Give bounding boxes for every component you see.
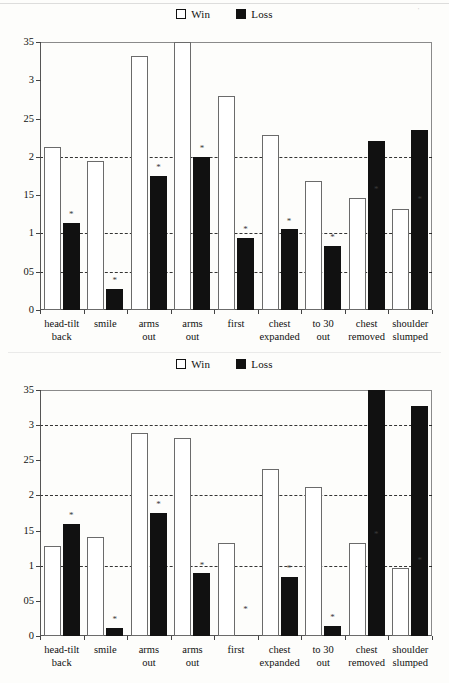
bar-win — [87, 161, 104, 310]
significance-marker: * — [147, 163, 170, 172]
bar-loss — [368, 141, 385, 310]
y-axis-tick-label: 0 — [4, 305, 34, 315]
significance-marker: * — [321, 233, 344, 242]
bar-loss — [63, 223, 80, 310]
white-square-icon — [176, 359, 186, 369]
significance-marker: * — [190, 144, 213, 153]
x-axis-tick-mark — [432, 310, 433, 314]
bar-loss — [281, 577, 298, 636]
x-axis-tick-mark — [127, 310, 128, 314]
significance-marker: * — [234, 605, 257, 614]
significance-marker: * — [60, 210, 83, 219]
x-axis-tick-mark — [84, 636, 85, 640]
x-axis-label-line2: slumped — [380, 657, 440, 670]
bar-loss — [63, 524, 80, 636]
bar-win — [305, 487, 322, 636]
x-axis-label-line1: shoulder — [380, 644, 440, 657]
chart-legend-bottom: Win Loss — [0, 358, 449, 370]
y-axis-tick-mark — [36, 531, 41, 532]
significance-marker: * — [365, 185, 388, 194]
bar-win — [218, 96, 235, 310]
bar-loss — [324, 626, 341, 636]
y-axis-tick-label: 25 — [4, 455, 34, 465]
significance-marker: * — [60, 511, 83, 520]
x-axis-tick-mark — [388, 636, 389, 640]
x-axis-tick-mark — [127, 636, 128, 640]
y-axis-tick-label: 2 — [4, 490, 34, 500]
x-axis-tick-mark — [258, 310, 259, 314]
y-axis-tick-label: 35 — [4, 385, 34, 395]
bar-loss — [281, 229, 298, 310]
y-axis-tick-label: 05 — [4, 596, 34, 606]
y-axis-tick-label: 1 — [4, 228, 34, 238]
bar-loss — [106, 289, 123, 310]
x-axis-label: shoulderslumped — [380, 644, 440, 669]
bar-win — [44, 147, 61, 310]
significance-marker: * — [408, 195, 431, 204]
significance-marker: * — [321, 613, 344, 622]
bar-loss — [324, 246, 341, 310]
bar-win — [349, 198, 366, 310]
y-axis-tick-mark — [36, 495, 41, 496]
significance-marker: * — [234, 225, 257, 234]
bar-loss — [106, 628, 123, 636]
y-axis-tick-mark — [36, 460, 41, 461]
bar-win — [131, 433, 148, 636]
y-axis-tick-label: 35 — [4, 37, 34, 47]
significance-marker: * — [278, 217, 301, 226]
bar-loss — [411, 130, 428, 310]
significance-marker: * — [103, 276, 126, 285]
legend-label-loss: Loss — [251, 8, 273, 20]
y-axis-tick-mark — [36, 233, 41, 234]
bar-loss — [193, 573, 210, 636]
x-axis-label-line2: out — [163, 331, 223, 344]
legend-item-win[interactable]: Win — [176, 358, 210, 370]
y-axis-tick-label: 15 — [4, 190, 34, 200]
x-axis-tick-mark — [84, 310, 85, 314]
x-axis-label-line2: back — [32, 331, 92, 344]
black-square-icon — [236, 9, 246, 19]
bar-loss — [368, 390, 385, 636]
bar-win — [262, 469, 279, 636]
legend-item-loss[interactable]: Loss — [236, 358, 273, 370]
y-axis-tick-mark — [36, 80, 41, 81]
x-axis-label-line2: back — [32, 657, 92, 670]
significance-marker: * — [147, 500, 170, 509]
bar-win — [174, 438, 191, 636]
y-axis-tick-label: 05 — [4, 267, 34, 277]
chart-panel-bottom: Win Loss 353252151050*head-tiltback*smil… — [0, 358, 449, 680]
bar-win — [262, 135, 279, 310]
bar-loss — [150, 176, 167, 310]
x-axis-tick-mark — [432, 636, 433, 640]
black-square-icon — [236, 359, 246, 369]
legend-label-loss: Loss — [251, 358, 273, 370]
x-axis-label-line2: slumped — [380, 331, 440, 344]
x-axis-label: shoulderslumped — [380, 318, 440, 343]
significance-marker: * — [190, 561, 213, 570]
bar-win — [131, 56, 148, 310]
x-axis-tick-mark — [171, 310, 172, 314]
bar-win — [87, 537, 104, 636]
legend-item-loss[interactable]: Loss — [236, 8, 273, 20]
y-axis-tick-mark — [36, 195, 41, 196]
significance-marker: * — [278, 564, 301, 573]
legend-item-win[interactable]: Win — [176, 8, 210, 20]
bar-win — [392, 568, 409, 636]
significance-marker: * — [103, 615, 126, 624]
bar-win — [349, 543, 366, 636]
significance-marker: * — [365, 530, 388, 539]
x-axis-label-line1: shoulder — [380, 318, 440, 331]
bar-win — [392, 209, 409, 310]
bar-loss — [237, 238, 254, 310]
y-axis-tick-mark — [36, 119, 41, 120]
y-axis-tick-label: 1 — [4, 561, 34, 571]
bar-loss — [411, 406, 428, 636]
y-axis-tick-label: 2 — [4, 152, 34, 162]
y-axis-tick-label: 0 — [4, 631, 34, 641]
y-axis-tick-mark — [36, 272, 41, 273]
legend-label-win: Win — [191, 8, 210, 20]
plot-area-bottom: 353252151050*head-tiltback*smile*armsout… — [0, 390, 449, 682]
x-axis-tick-mark — [258, 636, 259, 640]
bar-win — [218, 543, 235, 636]
y-axis-tick-mark — [36, 157, 41, 158]
